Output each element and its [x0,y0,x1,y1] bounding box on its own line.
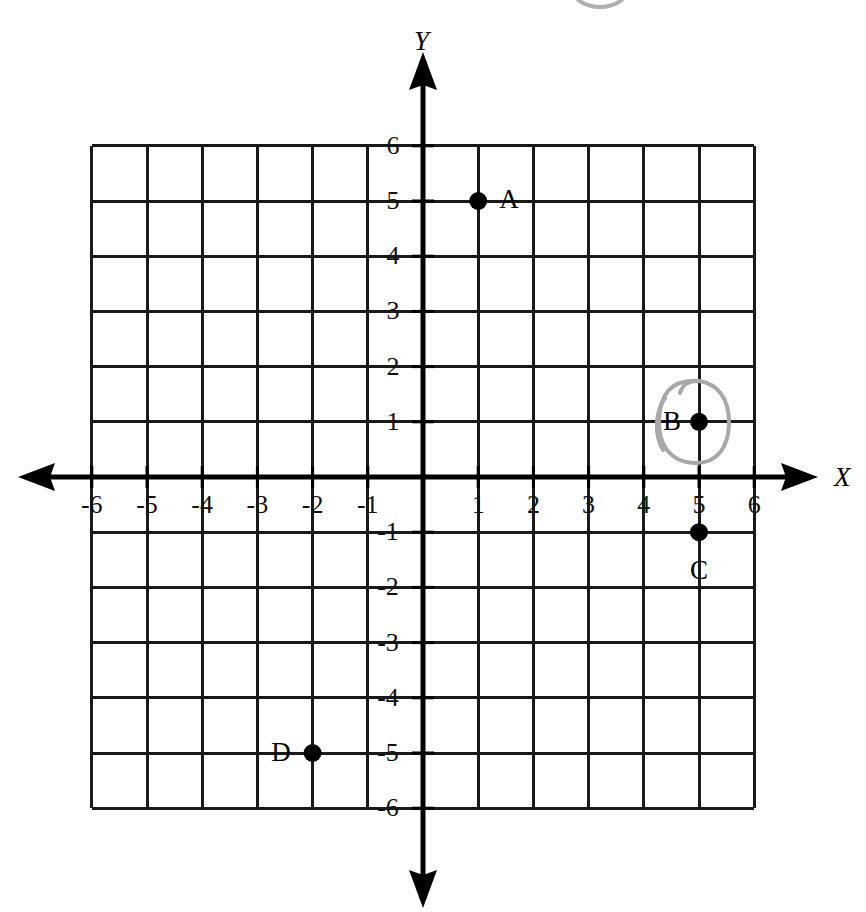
x-tick-label: -4 [191,492,213,518]
stray-ellipse-annotation [574,0,626,7]
y-tick-label: -5 [377,740,399,766]
y-tick-label: 4 [387,243,400,269]
coordinate-plane-figure: Y X -6 -5 -4 -3 -2 -1 1 2 3 4 5 6 6 5 4 … [0,0,866,912]
y-tick-label: -3 [377,630,399,656]
x-tick-label: -6 [81,492,103,518]
x-tick-label: -2 [302,492,324,518]
x-tick-label: 4 [637,492,650,518]
x-axis-label: X [834,464,851,491]
x-tick-label: -5 [136,492,158,518]
y-axis [409,52,437,908]
y-tick-label: 2 [387,354,400,380]
y-tick-label: -6 [377,795,399,821]
y-axis-label: Y [414,28,429,55]
point-a-marker [469,192,487,210]
y-tick-label: -4 [377,685,399,711]
x-tick-label: 2 [527,492,540,518]
x-tick-label: 1 [472,492,485,518]
x-tick-label: 5 [693,492,706,518]
point-label-b: B [663,408,681,435]
y-tick-label: 1 [387,409,400,435]
point-label-c: C [690,557,708,584]
point-label-d: D [271,739,291,766]
coordinate-plane-svg [0,0,866,912]
x-tick-label: 3 [582,492,595,518]
y-tick-label: 5 [387,188,400,214]
x-tick-label: -3 [247,492,269,518]
x-tick-label: 6 [748,492,761,518]
point-d-marker [304,744,322,762]
y-tick-label: 3 [387,298,400,324]
y-tick-label: -1 [377,519,399,545]
point-label-a: A [499,186,519,213]
y-tick-label: -2 [377,574,399,600]
point-b-marker [690,413,708,431]
y-tick-label: 6 [387,133,400,159]
point-c-marker [690,523,708,541]
x-tick-label: -1 [357,492,379,518]
